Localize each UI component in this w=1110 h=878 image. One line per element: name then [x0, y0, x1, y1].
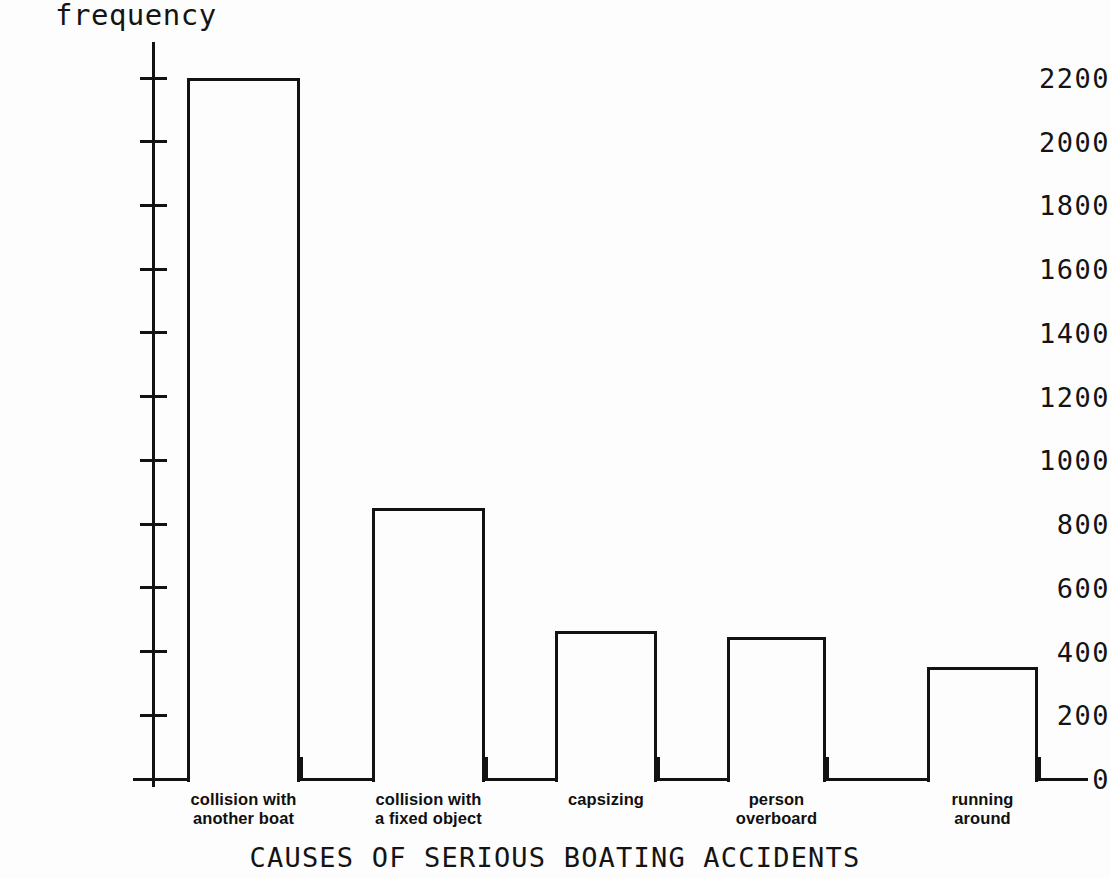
y-axis-title: frequency [55, 0, 217, 32]
y-tick-label-1600: 1600 [992, 254, 1110, 285]
x-tick-7 [826, 757, 829, 779]
bar-4[interactable] [927, 667, 1038, 782]
y-tick-label-800: 800 [992, 509, 1110, 540]
y-tick-label-1200: 1200 [992, 381, 1110, 412]
y-tick-1000 [140, 459, 167, 462]
category-label-line1: running [951, 790, 1013, 808]
bar-chart: frequency 020040060080010001200140016001… [0, 0, 1110, 878]
category-label-4: runningaround [887, 790, 1078, 828]
y-tick-label-400: 400 [992, 636, 1110, 667]
y-axis-line [152, 42, 155, 787]
category-label-line2: another boat [147, 809, 340, 828]
category-label-line1: collision with [376, 790, 482, 808]
category-label-line1: capsizing [568, 790, 644, 808]
y-tick-2200 [140, 77, 167, 80]
y-tick-400 [140, 650, 167, 653]
x-tick-5 [657, 757, 660, 779]
y-tick-1400 [140, 331, 167, 334]
category-label-2: capsizing [515, 790, 697, 809]
y-tick-2000 [140, 140, 167, 143]
x-tick-3 [485, 757, 488, 779]
bar-3[interactable] [727, 637, 826, 782]
y-tick-label-2000: 2000 [992, 126, 1110, 157]
category-label-line2: around [887, 809, 1078, 828]
y-tick-1200 [140, 395, 167, 398]
category-label-0: collision withanother boat [147, 790, 340, 828]
category-label-line1: collision with [191, 790, 297, 808]
bar-0[interactable] [187, 78, 300, 782]
y-tick-label-1400: 1400 [992, 317, 1110, 348]
y-tick-label-2200: 2200 [992, 63, 1110, 94]
bar-2[interactable] [555, 631, 657, 782]
y-tick-1800 [140, 204, 167, 207]
x-tick-9 [1038, 757, 1041, 779]
category-label-line2: overboard [687, 809, 866, 828]
category-label-1: collision witha fixed object [332, 790, 525, 828]
y-tick-200 [140, 714, 167, 717]
category-label-line2: a fixed object [332, 809, 525, 828]
category-label-3: personoverboard [687, 790, 866, 828]
y-tick-0 [140, 778, 167, 781]
chart-title: CAUSES OF SERIOUS BOATING ACCIDENTS [0, 842, 1110, 873]
y-tick-label-1000: 1000 [992, 445, 1110, 476]
y-tick-800 [140, 523, 167, 526]
y-tick-600 [140, 586, 167, 589]
y-tick-1600 [140, 268, 167, 271]
category-label-line1: person [749, 790, 805, 808]
x-tick-1 [300, 757, 303, 779]
bar-1[interactable] [372, 508, 485, 782]
y-tick-label-1800: 1800 [992, 190, 1110, 221]
y-tick-label-600: 600 [992, 572, 1110, 603]
